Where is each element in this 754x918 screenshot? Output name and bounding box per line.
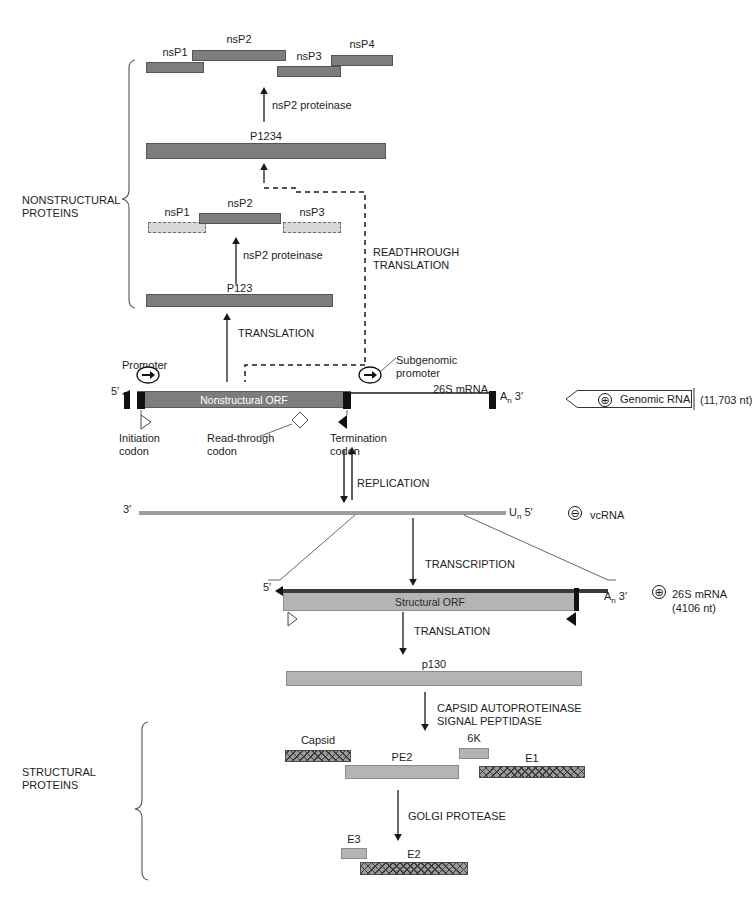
subgenomic-polyA-block bbox=[574, 588, 579, 611]
structural-initiation-marker bbox=[288, 612, 297, 626]
initiation-codon-marker bbox=[141, 415, 151, 429]
leader-subgenomic-promoter bbox=[381, 358, 396, 371]
readthrough-dashed-path-upper bbox=[264, 188, 365, 365]
readthrough-dashed-path-lower bbox=[245, 365, 365, 382]
leader-subgenomic-right bbox=[464, 515, 608, 580]
bracket-nonstructural bbox=[122, 60, 135, 308]
leader-subgenomic-left bbox=[280, 515, 355, 580]
termination-codon-marker bbox=[338, 415, 347, 429]
structural-termination-marker bbox=[566, 612, 576, 626]
connector-overlay bbox=[0, 0, 754, 918]
badge-genomic-rna-arrowhead bbox=[566, 390, 578, 408]
subgenomic-5prime-arrowhead bbox=[275, 586, 283, 596]
genome-5prime-arrowhead bbox=[122, 390, 130, 398]
bracket-structural bbox=[135, 722, 148, 880]
diagram-canvas: NONSTRUCTURAL PROTEINS STRUCTURAL PROTEI… bbox=[0, 0, 754, 918]
leader-readthrough-codon bbox=[258, 424, 292, 437]
readthrough-codon-marker bbox=[292, 412, 308, 428]
